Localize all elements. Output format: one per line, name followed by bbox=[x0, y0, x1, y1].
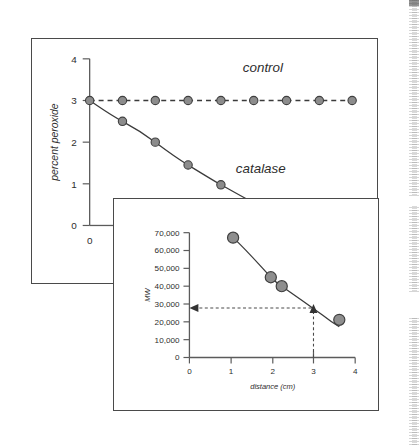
mw-ytick-label-30000: 30,000 bbox=[155, 300, 180, 309]
control-marker bbox=[151, 96, 159, 104]
peroxide-ytick-label-1: 1 bbox=[71, 179, 77, 190]
catalase-marker bbox=[184, 161, 192, 169]
mw-ytick-label-70000: 70,000 bbox=[155, 229, 180, 238]
figure-canvas: 4 3 2 1 0 0 percent peroxide bbox=[0, 0, 419, 445]
control-marker bbox=[184, 96, 192, 104]
mw-marker bbox=[228, 232, 239, 243]
mw-marker bbox=[265, 272, 276, 283]
catalase-series-label: catalase bbox=[236, 161, 286, 176]
mw-y-axis-title: MW bbox=[143, 288, 152, 302]
mw-xtick-label-1: 1 bbox=[229, 367, 234, 376]
control-marker bbox=[217, 96, 225, 104]
mw-xtick-label-3: 3 bbox=[311, 367, 316, 376]
mw-chart-panel: 70,000 60,000 50,000 40,000 30,000 20,00… bbox=[113, 198, 379, 411]
control-marker bbox=[315, 96, 323, 104]
catalase-marker bbox=[118, 117, 126, 125]
mw-ytick-label-40000: 40,000 bbox=[155, 282, 180, 291]
mw-xtick-label-0: 0 bbox=[187, 367, 192, 376]
control-marker bbox=[118, 96, 126, 104]
mw-marker bbox=[334, 314, 345, 325]
control-marker bbox=[348, 96, 356, 104]
mw-ytick-label-60000: 60,000 bbox=[155, 246, 180, 255]
peroxide-ytick-label-3: 3 bbox=[71, 95, 77, 106]
mw-ytick-label-0: 0 bbox=[175, 353, 180, 362]
mw-ytick-label-10000: 10,000 bbox=[155, 336, 180, 345]
peroxide-ytick-label-2: 2 bbox=[71, 137, 77, 148]
peroxide-y-axis-title: percent peroxide bbox=[49, 103, 60, 182]
control-marker bbox=[85, 96, 93, 104]
catalase-marker bbox=[151, 138, 159, 146]
mw-xtick-label-4: 4 bbox=[353, 367, 358, 376]
control-series-label: control bbox=[243, 60, 284, 75]
mw-ytick-label-20000: 20,000 bbox=[155, 318, 180, 327]
mw-guide-arrow-left bbox=[189, 304, 198, 312]
catalase-marker bbox=[217, 181, 225, 189]
mw-ytick-label-50000: 50,000 bbox=[155, 264, 180, 273]
mw-x-axis-title: distance (cm) bbox=[250, 382, 296, 391]
peroxide-ytick-label-4: 4 bbox=[71, 54, 77, 65]
scan-artifact-strip bbox=[409, 0, 419, 445]
mw-marker bbox=[276, 281, 287, 292]
scan-artifact-inner bbox=[412, 0, 417, 445]
mw-xtick-label-2: 2 bbox=[271, 367, 276, 376]
control-marker bbox=[282, 96, 290, 104]
peroxide-ytick-label-0: 0 bbox=[71, 220, 77, 231]
scan-artifact-gap-upper bbox=[409, 196, 419, 206]
peroxide-xtick-label-0: 0 bbox=[87, 235, 93, 246]
scan-artifact-gap-lower bbox=[409, 292, 419, 318]
control-marker bbox=[250, 96, 258, 104]
mw-chart-svg: 70,000 60,000 50,000 40,000 30,000 20,00… bbox=[114, 199, 378, 410]
